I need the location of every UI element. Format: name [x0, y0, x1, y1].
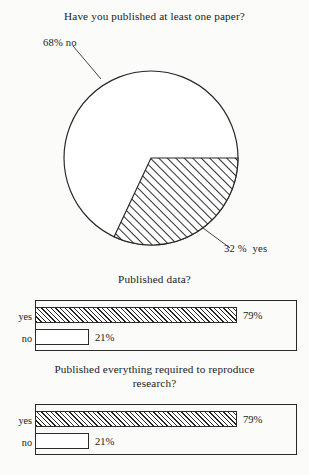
bar-chart-1-row-label-yes: yes — [0, 311, 32, 323]
pie-chart-section: Have you published at least one paper? 6… — [0, 0, 309, 268]
leader-line-no — [73, 46, 101, 79]
bar-chart-1-title: Published data? — [0, 272, 309, 286]
bar-chart-1-value-yes: 79% — [243, 310, 262, 322]
bar-chart-2-row-label-yes: yes — [0, 415, 32, 427]
bar-chart-2-title-line2: research? — [0, 376, 309, 390]
bar-chart-2-value-yes: 79% — [243, 414, 262, 426]
bar-chart-2-bar-yes — [35, 411, 237, 427]
bar-chart-1-bar-no — [35, 329, 89, 345]
bar-chart-published-data: Published data? yes 79% no 21% — [0, 272, 309, 356]
bar-chart-2-row-label-no: no — [0, 437, 32, 449]
bar-chart-2-value-no: 21% — [95, 436, 114, 448]
bar-chart-1-bar-yes — [35, 307, 237, 323]
bar-chart-published-everything: Published everything required to reprodu… — [0, 362, 309, 467]
bar-chart-2-bar-no — [35, 433, 89, 449]
bar-chart-2-title-line1: Published everything required to reprodu… — [0, 362, 309, 376]
pie-chart-title: Have you published at least one paper? — [0, 9, 309, 23]
pie-label-yes: 32 % yes — [224, 243, 267, 255]
bar-chart-1-row-label-no: no — [0, 333, 32, 345]
bar-chart-1-value-no: 21% — [95, 332, 114, 344]
pie-label-no: 68% no — [43, 37, 77, 49]
survey-figure-page: Have you published at least one paper? 6… — [0, 0, 309, 475]
